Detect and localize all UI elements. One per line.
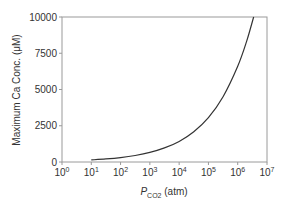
x-tick-base: 10 (259, 167, 271, 178)
x-tick-exponent: 7 (271, 166, 275, 173)
x-tick-label: 105 (201, 166, 216, 178)
x-tick-exponent: 6 (241, 166, 245, 173)
x-tick-label: 102 (113, 166, 128, 178)
x-tick-base: 10 (54, 167, 66, 178)
y-axis-title: Maximum Ca Conc. (μM) (11, 34, 22, 145)
x-tick-label: 101 (84, 166, 99, 178)
x-tick-exponent: 1 (95, 166, 99, 173)
series-line (91, 17, 253, 160)
x-axis-title-sub: CO2 (147, 192, 162, 199)
x-tick-label: 107 (259, 166, 274, 178)
x-tick-base: 10 (230, 167, 242, 178)
x-tick-label: 104 (172, 166, 187, 178)
x-tick-label: 103 (142, 166, 157, 178)
x-tick-base: 10 (172, 167, 184, 178)
x-axis-title-unit: (atm) (161, 186, 187, 197)
x-tick-base: 10 (113, 167, 125, 178)
series-lines (91, 17, 253, 160)
y-tick-label: 2500 (35, 120, 58, 131)
x-tick-exponent: 2 (124, 166, 128, 173)
x-tick-exponent: 5 (212, 166, 216, 173)
y-tick-label: 10000 (29, 12, 57, 23)
y-tick-label: 5000 (35, 84, 58, 95)
plot-frame (62, 17, 267, 162)
y-axis: 025005000750010000 (29, 12, 62, 168)
x-tick-label: 100 (54, 166, 69, 178)
y-tick-label: 7500 (35, 48, 58, 59)
chart: 025005000750010000 100101102103104105106… (0, 0, 287, 213)
x-tick-base: 10 (142, 167, 154, 178)
x-axis: 100101102103104105106107 (54, 162, 274, 178)
y-tick-label: 0 (51, 157, 57, 168)
x-tick-exponent: 0 (66, 166, 70, 173)
x-tick-exponent: 3 (153, 166, 157, 173)
plot-border (62, 17, 267, 162)
x-tick-base: 10 (201, 167, 213, 178)
x-tick-exponent: 4 (183, 166, 187, 173)
x-tick-label: 106 (230, 166, 245, 178)
x-axis-title: PCO2 (atm) (140, 186, 187, 199)
x-tick-base: 10 (84, 167, 96, 178)
